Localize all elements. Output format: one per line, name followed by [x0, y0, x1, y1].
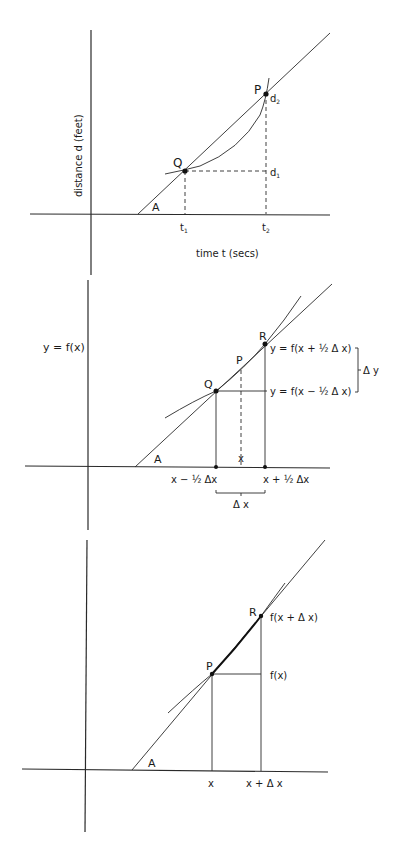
- y-axis-title: distance d (feet): [73, 114, 84, 197]
- chord-line: [135, 284, 332, 467]
- label-d1: d1: [270, 167, 280, 179]
- point-p: [263, 91, 268, 96]
- function-curve: [165, 296, 301, 418]
- label-a: A: [152, 201, 160, 214]
- point-r: [259, 614, 263, 618]
- symmetric-difference-diagram: y = f(x) R P Q A x x − ½ Δx x + ½ Δx Δ x…: [0, 280, 397, 540]
- label-x-plus: x + Δ x: [246, 778, 283, 789]
- y-axis: [85, 540, 87, 832]
- label-x-right: x + ½ Δx: [263, 474, 309, 485]
- x-axis-title: time t (secs): [196, 248, 259, 259]
- function-curve-segment: [212, 616, 261, 674]
- label-x-left: x − ½ Δx: [171, 474, 217, 485]
- label-r: R: [259, 330, 267, 343]
- label-a: A: [154, 453, 162, 466]
- label-t1: t1: [180, 222, 188, 234]
- point-q: [214, 389, 219, 394]
- function-curve-left: [168, 674, 212, 713]
- label-delta-y: Δ y: [363, 365, 379, 376]
- label-p: P: [236, 354, 243, 367]
- label-lower-value: f(x): [270, 670, 287, 681]
- label-p: P: [206, 660, 213, 673]
- tick-right: [263, 465, 267, 469]
- secant-line: [138, 33, 330, 214]
- tick-left: [214, 465, 218, 469]
- label-x: x: [208, 778, 214, 789]
- label-delta-x: Δ x: [233, 499, 249, 510]
- function-label: y = f(x): [43, 341, 85, 354]
- x-axis: [22, 769, 328, 772]
- x-axis: [30, 214, 330, 215]
- label-lower-value: y = f(x − ½ Δ x): [270, 386, 352, 397]
- forward-difference-diagram: P R A f(x + Δ x) f(x) x x + Δ x: [0, 540, 397, 847]
- distance-time-diagram: Q P A d2 d1 t1 t2 time t (secs) distance…: [0, 0, 397, 280]
- label-t2: t2: [262, 222, 270, 234]
- label-p: P: [254, 83, 261, 97]
- label-a: A: [148, 757, 156, 770]
- label-q: Q: [204, 378, 213, 391]
- label-r: R: [249, 606, 257, 619]
- point-q: [182, 168, 187, 173]
- delta-x-bracket: [216, 490, 265, 496]
- x-axis: [25, 466, 330, 468]
- delta-y-bracket: [355, 348, 361, 392]
- label-q: Q: [173, 156, 182, 170]
- label-x-center: x: [238, 453, 244, 464]
- label-upper-value: f(x + Δ x): [270, 612, 318, 623]
- label-d2: d2: [270, 93, 280, 105]
- label-upper-value: y = f(x + ½ Δ x): [270, 343, 352, 354]
